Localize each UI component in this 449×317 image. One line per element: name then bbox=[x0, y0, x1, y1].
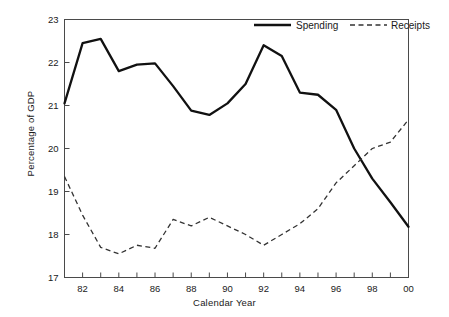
x-axis-ticks bbox=[65, 273, 409, 278]
y-axis-tick-label: 22 bbox=[37, 57, 59, 68]
x-axis-tick-label: 96 bbox=[324, 283, 348, 294]
y-axis-tick-label: 20 bbox=[37, 143, 59, 154]
chart-plot-svg bbox=[0, 0, 449, 317]
x-axis-tick-label: 90 bbox=[215, 283, 239, 294]
x-axis-tick-label: 92 bbox=[252, 283, 276, 294]
chart-container: 17181920212223 82848688909294969800 Cale… bbox=[0, 0, 449, 317]
legend-label-receipts: Receipts bbox=[391, 20, 430, 31]
y-axis-title: Percentage of GDP bbox=[25, 54, 36, 214]
x-axis-tick-label: 00 bbox=[397, 283, 421, 294]
y-axis-tick-label: 19 bbox=[37, 186, 59, 197]
series-line-receipts bbox=[65, 120, 409, 254]
y-axis-tick-label: 17 bbox=[37, 272, 59, 283]
x-axis-tick-label: 86 bbox=[143, 283, 167, 294]
legend-label-spending: Spending bbox=[296, 20, 338, 31]
x-axis-tick-label: 94 bbox=[288, 283, 312, 294]
series-line-spending bbox=[65, 39, 409, 227]
y-axis-ticks bbox=[65, 20, 70, 278]
x-axis-tick-label: 82 bbox=[71, 283, 95, 294]
y-axis-tick-label: 23 bbox=[37, 14, 59, 25]
x-axis-tick-label: 98 bbox=[360, 283, 384, 294]
x-axis-tick-label: 84 bbox=[107, 283, 131, 294]
y-axis-tick-label: 18 bbox=[37, 229, 59, 240]
y-axis-tick-label: 21 bbox=[37, 100, 59, 111]
x-axis-tick-label: 88 bbox=[179, 283, 203, 294]
plot-frame bbox=[65, 20, 409, 278]
x-axis-title: Calendar Year bbox=[0, 297, 449, 308]
